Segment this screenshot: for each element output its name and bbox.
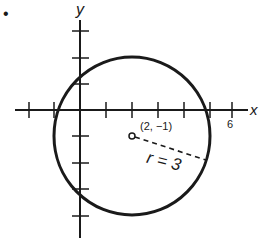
x-axis-label: x — [249, 101, 258, 118]
radius-label: r = 3 — [145, 148, 184, 175]
y-axis-label: y — [75, 1, 85, 18]
center-point — [129, 133, 135, 139]
x-tick-label-6: 6 — [227, 118, 233, 130]
bullet-marker: • — [3, 5, 9, 22]
center-coordinate-label: (2, −1) — [140, 120, 172, 132]
coordinate-plane: • y x 6 (2, −1) r = 3 — [0, 0, 263, 247]
